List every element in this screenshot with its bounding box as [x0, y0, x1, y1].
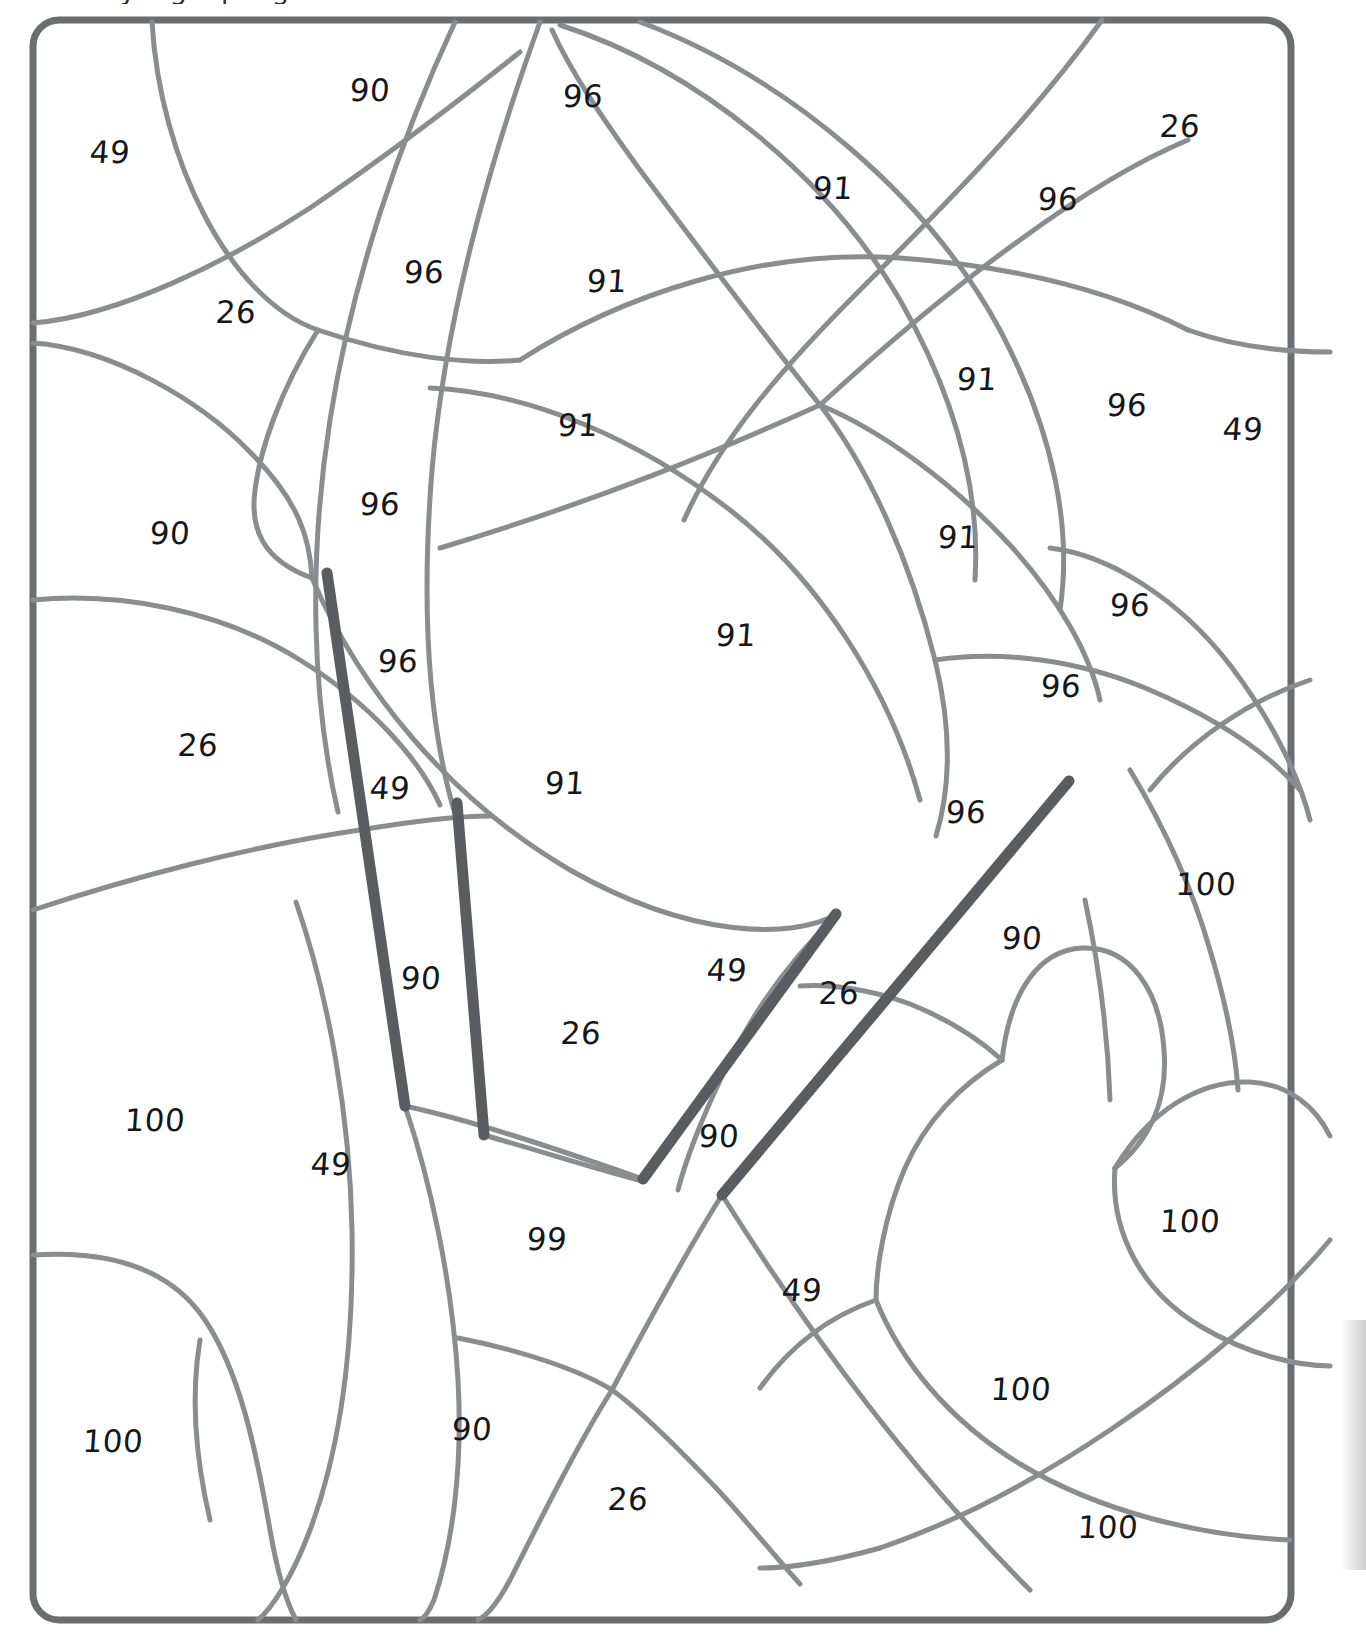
- region-label: 100: [123, 1102, 186, 1138]
- region-label: 96: [562, 78, 605, 114]
- region-label: 26: [607, 1481, 650, 1517]
- curve-ll-a: [258, 902, 352, 1620]
- region-label: 26: [215, 294, 258, 330]
- region-label: 90: [349, 72, 392, 108]
- curve-bl-c: [484, 1135, 643, 1181]
- region-label: 26: [1159, 108, 1202, 144]
- region-label: 96: [359, 486, 402, 522]
- region-label: 96: [403, 254, 446, 290]
- curve-ellipse-a: [560, 25, 976, 580]
- puzzle-canvas: y a g u p e g: [0, 0, 1366, 1637]
- curve-tl-3: [33, 52, 520, 323]
- curve-bl-b: [405, 1106, 640, 1178]
- curve-bl-f: [478, 1390, 612, 1620]
- curve-hub-diag: [440, 405, 820, 548]
- region-label: 26: [177, 727, 220, 763]
- curve-vert-left-2: [427, 22, 540, 830]
- region-label: 49: [706, 952, 749, 988]
- region-label: 49: [369, 770, 412, 806]
- curve-heart-bottom: [1114, 1168, 1330, 1366]
- curve-rm-connector-2: [1130, 770, 1238, 1090]
- curve-lr-a: [760, 1300, 876, 1388]
- region-label: 91: [586, 263, 629, 299]
- region-label: 96: [945, 794, 988, 830]
- region-label: 90: [698, 1118, 741, 1154]
- region-label: 26: [560, 1015, 603, 1051]
- region-label: 96: [377, 643, 420, 679]
- region-label: 90: [1001, 920, 1044, 956]
- curve-heart-body: [876, 1060, 1002, 1300]
- region-label: 100: [81, 1423, 144, 1459]
- region-label: 91: [557, 407, 600, 443]
- curve-right-edge-1: [1188, 330, 1330, 352]
- region-label: 49: [781, 1272, 824, 1308]
- board-svg: [0, 0, 1366, 1637]
- region-label: 100: [1076, 1509, 1139, 1545]
- region-label: 100: [1174, 866, 1237, 902]
- region-label: 96: [1040, 668, 1083, 704]
- curve-left-mid-b: [33, 816, 490, 910]
- curve-heart-lobe-right: [1115, 1082, 1330, 1168]
- curve-bc-diag: [612, 1195, 722, 1390]
- region-label: 91: [715, 617, 758, 653]
- region-label: 96: [1109, 587, 1152, 623]
- region-label: 49: [310, 1146, 353, 1182]
- highlight-bars-group[interactable]: [327, 573, 1069, 1195]
- region-boundary-group: [33, 20, 1330, 1620]
- curve-lr-b: [876, 1300, 1290, 1540]
- highlight-bar-left-inner[interactable]: [457, 803, 484, 1135]
- curve-inner-ellipse: [430, 388, 920, 800]
- region-label: 96: [1106, 387, 1149, 423]
- region-label: 91: [812, 170, 855, 206]
- curve-right-mid-a: [1050, 548, 1310, 820]
- region-label: 90: [451, 1411, 494, 1447]
- region-label: 26: [818, 975, 861, 1011]
- region-label: 99: [526, 1221, 569, 1257]
- region-label: 90: [400, 960, 443, 996]
- curve-ellipse-b: [640, 22, 1064, 610]
- region-label: 91: [544, 765, 587, 801]
- region-label: 49: [89, 134, 132, 170]
- region-label: 100: [989, 1371, 1052, 1407]
- curve-ll-c: [195, 1340, 210, 1520]
- region-label: 49: [1222, 411, 1265, 447]
- curve-right-mid-b: [935, 656, 1300, 790]
- curve-ll-b: [33, 1254, 296, 1620]
- region-label: 96: [1037, 181, 1080, 217]
- region-label: 91: [937, 519, 980, 555]
- curve-rm-connector: [1085, 900, 1110, 1100]
- region-label: 100: [1158, 1203, 1221, 1239]
- curve-bl-d: [458, 1338, 612, 1390]
- region-label: 90: [149, 515, 192, 551]
- region-label: 91: [956, 361, 999, 397]
- curve-bl-a: [405, 1106, 459, 1620]
- curve-lens-bottom: [312, 578, 838, 929]
- curve-bc-diag-2: [722, 1195, 1030, 1590]
